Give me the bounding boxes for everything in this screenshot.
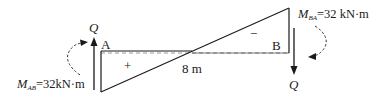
negative-sign: − <box>250 27 257 40</box>
moment-ba-label: MBA=32 kN·m <box>298 8 369 22</box>
span-label: 8 m <box>182 62 202 75</box>
moment-arrow-left-icon <box>68 40 88 76</box>
right-force-label: Q <box>289 78 298 91</box>
node-a-label: A <box>101 38 110 51</box>
moment-ab-value: =32kN·m <box>36 77 85 91</box>
shear-diagonal <box>101 8 289 92</box>
moment-ab-symbol: M <box>17 77 27 91</box>
moment-arrow-right-icon <box>308 26 326 60</box>
moment-ba-value: =32 kN·m <box>317 7 369 21</box>
positive-sign: + <box>124 59 131 72</box>
left-force-label: Q <box>89 21 98 34</box>
node-b-label: B <box>272 39 281 52</box>
arrow-up-icon <box>91 37 98 90</box>
moment-ba-subscript: BA <box>308 14 317 22</box>
moment-ab-label: MAB=32kN·m <box>17 78 85 92</box>
moment-ab-subscript: AB <box>27 84 36 92</box>
arrow-down-icon <box>291 28 298 75</box>
moment-ba-symbol: M <box>298 7 308 21</box>
